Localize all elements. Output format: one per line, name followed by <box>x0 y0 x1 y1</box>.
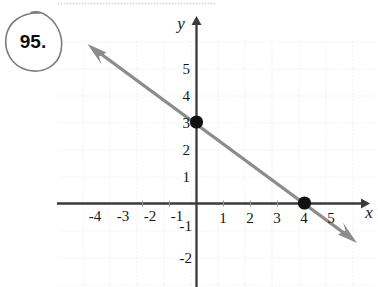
coordinate-grid <box>57 41 375 287</box>
x-tick-neg1: -1 <box>171 208 184 224</box>
x-tick-neg2: -2 <box>144 208 157 224</box>
x-tick-2: 2 <box>246 210 254 226</box>
y-tick-1: 1 <box>183 169 191 185</box>
graph-figure: 5 4 3 2 1 -1 -2 -4 -3 -2 -1 1 2 3 4 5 y … <box>0 0 378 287</box>
y-tick-5: 5 <box>183 61 191 77</box>
point-x-intercept <box>298 196 311 209</box>
x-tick-neg3: -3 <box>117 208 130 224</box>
y-tick-neg2: -2 <box>180 250 193 266</box>
x-tick-3: 3 <box>273 210 281 226</box>
x-tick-5: 5 <box>327 210 335 226</box>
point-y-intercept <box>190 115 203 128</box>
y-tick-2: 2 <box>183 142 191 158</box>
figure-page: 5 4 3 2 1 -1 -2 -4 -3 -2 -1 1 2 3 4 5 y … <box>0 0 378 287</box>
x-tick-4: 4 <box>300 210 308 226</box>
y-tick-3: 3 <box>183 115 191 131</box>
problem-number: 95. <box>20 31 46 52</box>
x-axis-label: x <box>364 203 373 222</box>
y-tick-4: 4 <box>183 88 191 104</box>
x-tick-1: 1 <box>219 210 227 226</box>
y-axis-label: y <box>175 14 185 33</box>
x-tick-neg4: -4 <box>89 208 102 224</box>
